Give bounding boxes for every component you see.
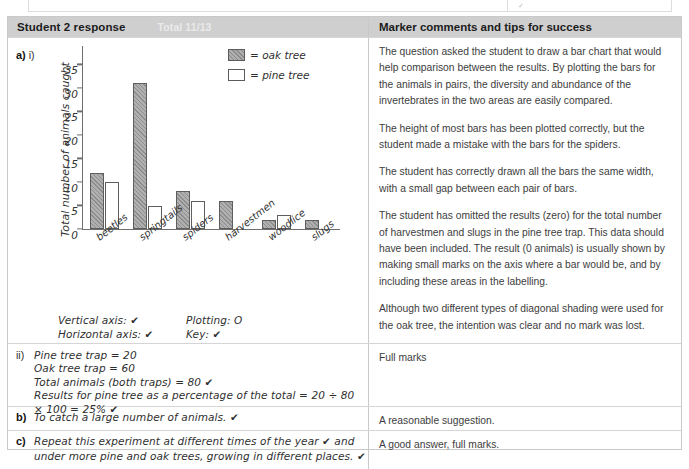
question-part-i: i) — [29, 49, 35, 61]
clipped-row-mark: ✓ — [518, 2, 524, 10]
header-cell-marker: Marker comments and tips for success — [369, 17, 681, 37]
marker-comment-paragraph: The question asked the student to draw a… — [379, 44, 670, 110]
answer-line: Total animals (both traps) = 80 ✔ — [34, 376, 354, 389]
table-row-b: b) To catch a large number of animals. ✔… — [8, 407, 681, 431]
answer-a-ii-head: ii) Pine tree trap = 20Oak tree trap = 6… — [16, 349, 362, 416]
bar-chart: Total number of animals caught 051015202… — [42, 44, 364, 310]
answer-line: Results for pine tree as a percentage of… — [34, 389, 354, 402]
chart-legend: = oak tree = pine tree — [228, 46, 310, 86]
y-tick-mark — [77, 111, 83, 112]
marker-comment-paragraph: The student has omitted the results (zer… — [379, 208, 670, 290]
y-tick-mark — [77, 228, 83, 229]
answer-b-lines: To catch a large number of animals. ✔ — [34, 411, 239, 426]
response-marking-table: Student 2 response Total 11/13 Marker co… — [7, 16, 682, 450]
answer-line: Pine tree trap = 20 — [34, 349, 354, 362]
marker-cell-a-ii: Full marks — [369, 344, 681, 406]
legend-entry-pine: = pine tree — [228, 66, 310, 83]
question-letter-c: c) — [16, 435, 34, 464]
question-part-ii-label: ii) — [16, 349, 34, 416]
annotation-key: Key: ✔ — [186, 328, 326, 340]
chart-x-axis — [82, 229, 340, 230]
answer-cell-b: b) To catch a large number of animals. ✔ — [8, 407, 369, 430]
chart-marking-annotations: Vertical axis: ✔ Plotting: O Horizontal … — [58, 314, 358, 342]
bar-harvestmen-oak-tree — [219, 201, 233, 229]
chart-y-axis — [82, 46, 83, 230]
y-tick-mark — [77, 134, 83, 135]
marker-cell-b: A reasonable suggestion. — [369, 407, 681, 430]
marker-comment-c: A good answer, full marks. — [369, 431, 681, 460]
marker-comment-a: The question asked the student to draw a… — [369, 38, 681, 341]
y-tick-mark — [77, 64, 83, 65]
question-letter-a: a) — [16, 49, 26, 61]
clipped-row-above: ✓ — [28, 0, 672, 12]
marker-comment-paragraph: Although two different types of diagonal… — [379, 301, 670, 334]
answer-cell-a: a)i) Total number of animals caught 0510… — [8, 38, 369, 343]
table-header-row: Student 2 response Total 11/13 Marker co… — [8, 17, 681, 38]
question-label-a: a)i) — [16, 45, 35, 63]
student-response-title: Student 2 response — [8, 21, 126, 33]
marker-comment-text: A reasonable suggestion. — [379, 413, 670, 429]
answer-cell-a-ii: ii) Pine tree trap = 20Oak tree trap = 6… — [8, 344, 369, 406]
chart-y-axis-label: Total number of animals caught — [46, 54, 62, 239]
annotation-vertical-axis: Vertical axis: ✔ — [58, 314, 186, 326]
marker-comment-paragraph: The student has correctly drawn all the … — [379, 164, 670, 197]
y-tick-mark — [77, 87, 83, 88]
annotation-row: Horizontal axis: ✔ Key: ✔ — [58, 328, 358, 342]
table-row-c: c) Repeat this experiment at different t… — [8, 431, 681, 469]
answer-cell-c: c) Repeat this experiment at different t… — [8, 431, 369, 469]
table-row-a: a)i) Total number of animals caught 0510… — [8, 38, 681, 344]
legend-label-pine: = pine tree — [250, 69, 310, 81]
answer-a-ii-lines: Pine tree trap = 20Oak tree trap = 60Tot… — [34, 349, 354, 416]
bar-springtails-oak-tree — [133, 83, 147, 229]
answer-a-ii-wrap: ii) Pine tree trap = 20Oak tree trap = 6… — [16, 349, 362, 416]
header-cell-student: Student 2 response Total 11/13 — [8, 17, 369, 37]
bar-beetles-oak-tree — [90, 173, 104, 229]
marker-comment-text: A good answer, full marks. — [379, 437, 670, 453]
legend-entry-oak: = oak tree — [228, 46, 310, 63]
annotation-horizontal-axis: Horizontal axis: ✔ — [58, 328, 186, 340]
answer-line: To catch a large number of animals. ✔ — [34, 411, 239, 426]
annotation-plotting: Plotting: O — [186, 314, 326, 326]
clipped-row-divider — [507, 0, 508, 12]
marker-comment-a-ii: Full marks — [369, 344, 681, 373]
answer-line: under more pine and oak trees, growing i… — [34, 450, 366, 465]
answer-c-wrap: c) Repeat this experiment at different t… — [16, 435, 362, 464]
marker-comment-paragraph: The height of most bars has been plotted… — [379, 121, 670, 154]
y-tick-mark — [77, 158, 83, 159]
legend-label-oak: = oak tree — [250, 49, 306, 61]
marker-cell-c: A good answer, full marks. — [369, 431, 681, 469]
total-score-badge: Total 11/13 — [126, 21, 212, 33]
y-tick-mark — [77, 181, 83, 182]
legend-swatch-oak-icon — [228, 49, 245, 61]
answer-b-wrap: b) To catch a large number of animals. ✔ — [16, 411, 362, 426]
marker-comment-text: Full marks — [379, 350, 670, 366]
marker-cell-a: The question asked the student to draw a… — [369, 38, 681, 343]
annotation-row: Vertical axis: ✔ Plotting: O — [58, 314, 358, 328]
marker-comments-title: Marker comments and tips for success — [369, 21, 592, 33]
answer-line: Repeat this experiment at different time… — [34, 435, 366, 450]
legend-swatch-pine-icon — [228, 69, 245, 81]
y-tick-mark — [77, 205, 83, 206]
answer-c-lines: Repeat this experiment at different time… — [34, 435, 366, 464]
table-row-a-ii: ii) Pine tree trap = 20Oak tree trap = 6… — [8, 344, 681, 407]
question-letter-b: b) — [16, 411, 34, 426]
answer-line: Oak tree trap = 60 — [34, 362, 354, 375]
